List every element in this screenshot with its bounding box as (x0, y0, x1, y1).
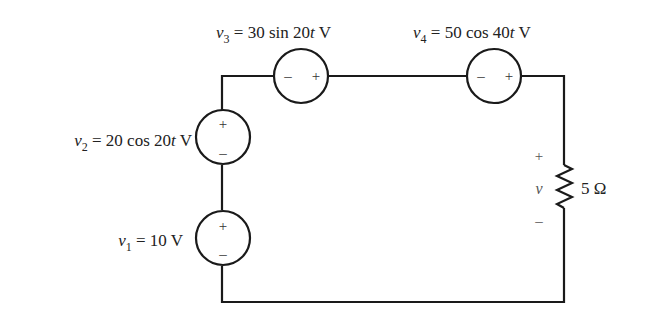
resistor-voltage-label: v (535, 180, 543, 197)
voltage-source-v4: – + (467, 49, 521, 103)
plus-sign: + (219, 116, 227, 132)
minus-sign: – (476, 68, 485, 84)
label-v1: v1 = 10 V (118, 231, 184, 254)
plus-sign: + (219, 218, 227, 234)
minus-sign: – (218, 145, 227, 161)
plus-sign: + (505, 68, 513, 84)
minus-sign: – (283, 68, 292, 84)
wire-bottom (222, 208, 564, 302)
voltage-source-v1: + – (196, 211, 250, 265)
wires (222, 76, 564, 302)
circuit-diagram: + – + – – + – + v3 = 30 sin 20t V v4 = 5… (0, 0, 652, 320)
label-v4: v4 = 50 cos 40t V (413, 23, 531, 46)
resistor-value-label: 5 Ω (581, 179, 606, 198)
plus-sign: + (312, 68, 320, 84)
resistor-plus-sign: + (535, 148, 543, 164)
label-v3: v3 = 30 sin 20t V (216, 23, 332, 46)
resistor-5-ohm (557, 165, 572, 208)
wire-top-left (222, 76, 274, 110)
label-v2: v2 = 20 cos 20t V (74, 131, 192, 154)
resistor-minus-sign: – (534, 213, 543, 229)
minus-sign: – (218, 246, 227, 262)
voltage-source-v3: – + (274, 49, 328, 103)
voltage-source-v2: + – (196, 110, 250, 164)
